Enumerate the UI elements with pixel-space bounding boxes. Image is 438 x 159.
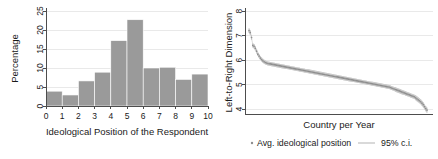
y-tick-label: 0 (35, 103, 45, 108)
y-axis-title: Percentage (9, 34, 20, 83)
x-tick-label: 6 (141, 111, 146, 121)
avg-position-point (248, 30, 250, 32)
y-tick-label: 7 (234, 33, 244, 38)
x-tick-label: 1 (60, 111, 65, 121)
x-tick-label: 0 (44, 111, 49, 121)
ranked-dotplot-plot: 45678Left-to-Right DimensionCountry per … (219, 0, 438, 159)
avg-position-point (254, 47, 256, 49)
histogram-bar (62, 95, 78, 106)
y-tick-label: 15 (35, 44, 45, 54)
avg-position-point (424, 106, 426, 108)
avg-position-point (257, 53, 259, 55)
avg-position-point (256, 50, 258, 52)
y-axis-title: Left-to-Right Dimension (223, 13, 234, 113)
avg-position-point (253, 45, 255, 47)
x-tick-label: 9 (189, 111, 194, 121)
x-axis-title: Country per Year (303, 119, 374, 130)
avg-position-point (422, 104, 424, 106)
x-tick-label: 10 (203, 111, 213, 121)
histogram-bar (176, 79, 192, 106)
y-tick-label: 5 (35, 84, 45, 89)
avg-position-point (426, 109, 428, 111)
avg-position-point (261, 59, 263, 61)
histogram-bar (111, 41, 127, 106)
two-panel-figure: 0510152025012345678910PercentageIdeologi… (0, 0, 438, 159)
avg-position-point (420, 101, 422, 103)
legend-label-confidence-interval: 95% c.i. (381, 138, 412, 148)
x-tick-label: 4 (108, 111, 113, 121)
y-tick-label: 20 (35, 25, 45, 35)
avg-position-point (258, 55, 260, 57)
avg-position-point (251, 37, 253, 39)
ranked-dotplot-panel: 45678Left-to-Right DimensionCountry per … (219, 0, 438, 159)
confidence-interval-band (249, 28, 427, 113)
x-tick-label: 2 (76, 111, 81, 121)
histogram-bar (78, 81, 94, 106)
histogram-bar (143, 68, 159, 106)
histogram-plot: 0510152025012345678910PercentageIdeologi… (0, 0, 219, 159)
x-tick-label: 8 (173, 111, 178, 121)
x-tick-label: 7 (157, 111, 162, 121)
histogram-panel: 0510152025012345678910PercentageIdeologi… (0, 0, 219, 159)
x-tick-label: 3 (92, 111, 97, 121)
legend-label-avg-position: Avg. ideological position (257, 138, 351, 148)
avg-position-point (260, 57, 262, 59)
avg-position-point (425, 108, 427, 110)
y-tick-label: 25 (35, 6, 45, 16)
y-tick-label: 5 (234, 82, 244, 87)
avg-position-point (249, 32, 251, 34)
histogram-bar (192, 74, 208, 106)
avg-position-point (421, 102, 423, 104)
y-tick-label: 6 (234, 57, 244, 62)
y-tick-label: 4 (234, 106, 244, 111)
legend-dot-marker (251, 142, 253, 144)
x-tick-label: 5 (125, 111, 130, 121)
histogram-bar (95, 72, 111, 106)
x-axis-title: Ideological Position of the Respondent (46, 126, 209, 137)
histogram-bar (159, 67, 175, 106)
y-tick-label: 8 (234, 8, 244, 13)
histogram-bar (127, 20, 143, 106)
histogram-bar (46, 91, 62, 106)
y-tick-label: 10 (35, 63, 45, 73)
